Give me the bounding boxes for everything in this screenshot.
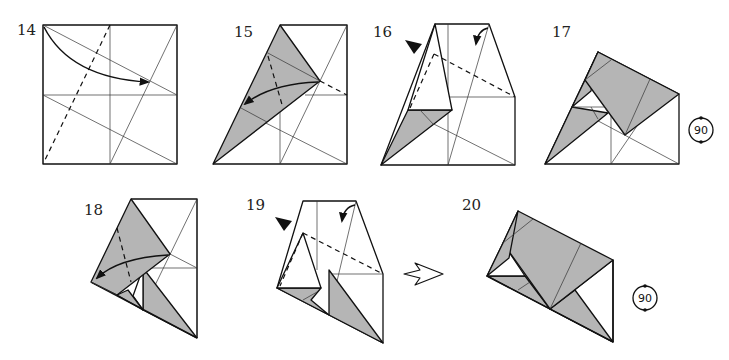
- step-15: 15: [213, 23, 347, 164]
- step-number-16: 16: [373, 23, 392, 41]
- step-19: 19: [246, 196, 383, 343]
- origami-diagram: 14 15 16: [0, 0, 729, 360]
- rotate-label: 90: [638, 292, 652, 305]
- push-arrow-icon: [275, 217, 292, 231]
- step-20: 20 90: [462, 196, 657, 342]
- step-14: 14: [17, 21, 177, 164]
- step-18: 18: [84, 199, 197, 338]
- next-step-arrow-icon: [404, 263, 443, 285]
- rotate-label: 90: [694, 124, 708, 137]
- step-16: 16: [373, 23, 515, 165]
- rotate-90-symbol: 90: [689, 116, 713, 144]
- step-number-15: 15: [234, 23, 253, 41]
- step-number-14: 14: [17, 21, 36, 39]
- step-number-18: 18: [84, 201, 103, 219]
- fold-arrow-icon: [44, 27, 148, 82]
- step-number-17: 17: [552, 23, 571, 41]
- step-17: 17 90: [545, 23, 713, 164]
- step-number-19: 19: [246, 196, 265, 214]
- push-arrow-icon: [405, 40, 422, 54]
- rotate-90-symbol: 90: [633, 284, 657, 312]
- step-number-20: 20: [462, 196, 481, 214]
